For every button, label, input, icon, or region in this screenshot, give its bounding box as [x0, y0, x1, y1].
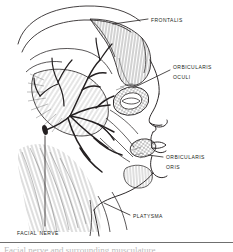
label-orbicularis-oris-line2: Oris — [166, 162, 205, 172]
label-orbicularis-oculi-line2: Oculi — [173, 72, 212, 82]
label-facial-nerve: Facial Nerve — [17, 228, 59, 238]
figure-caption: Facial nerve and surrounding musculature — [4, 245, 233, 252]
leader-orbicularis-oris — [148, 155, 163, 157]
label-frontalis: Frontalis — [151, 15, 183, 25]
parotid-masseter-region — [27, 69, 108, 136]
mentalis-muscle — [124, 165, 153, 188]
orbicularis-oculi-muscle — [110, 83, 152, 119]
anatomy-illustration — [0, 0, 233, 252]
caption-divider — [0, 242, 233, 243]
label-orbicularis-oris-line1: Orbicularis — [166, 152, 205, 161]
leader-frontalis — [113, 19, 148, 24]
leader-platysma — [104, 203, 130, 215]
label-orbicularis-oculi: OrbicularisOculi — [173, 62, 212, 81]
label-orbicularis-oculi-line1: Orbicularis — [173, 62, 212, 71]
frontalis-muscle — [90, 19, 151, 86]
anatomy-figure: Frontalis OrbicularisOculi OrbicularisOr… — [0, 0, 233, 252]
label-platysma: Platysma — [133, 211, 163, 221]
label-orbicularis-oris: OrbicularisOris — [166, 152, 205, 171]
